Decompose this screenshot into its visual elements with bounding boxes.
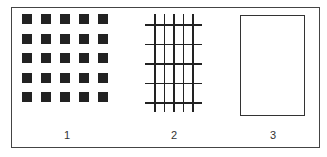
filled-square xyxy=(79,92,89,102)
filled-square xyxy=(60,92,70,102)
filled-square xyxy=(41,34,51,44)
filled-square xyxy=(41,73,51,83)
panel-3-label: 3 xyxy=(270,129,276,141)
filled-square xyxy=(22,92,32,102)
horizontal-line xyxy=(145,44,202,46)
horizontal-line xyxy=(145,24,202,26)
filled-square xyxy=(41,14,51,24)
filled-square xyxy=(79,53,89,63)
filled-square xyxy=(22,73,32,83)
filled-square xyxy=(60,53,70,63)
filled-square xyxy=(41,53,51,63)
filled-square xyxy=(98,34,108,44)
filled-square xyxy=(41,92,51,102)
filled-square xyxy=(79,14,89,24)
filled-square xyxy=(22,53,32,63)
horizontal-line xyxy=(145,83,202,85)
filled-square xyxy=(60,34,70,44)
filled-square xyxy=(79,34,89,44)
filled-square xyxy=(98,73,108,83)
panel-1-label: 1 xyxy=(64,129,70,141)
filled-square xyxy=(98,53,108,63)
filled-square xyxy=(98,14,108,24)
filled-square xyxy=(98,92,108,102)
filled-square xyxy=(60,14,70,24)
filled-square xyxy=(60,73,70,83)
panel-3-empty-rectangle xyxy=(240,15,305,116)
panel-2-label: 2 xyxy=(171,129,177,141)
horizontal-line xyxy=(145,102,202,104)
filled-square xyxy=(22,34,32,44)
filled-square xyxy=(79,73,89,83)
horizontal-line xyxy=(145,63,202,65)
filled-square xyxy=(22,14,32,24)
